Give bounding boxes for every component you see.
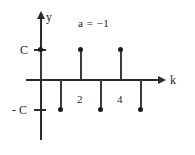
stem-k5 [140,80,142,110]
x-axis-label: k [170,74,176,86]
y-tick-label-positive-c: C [20,44,28,56]
stem-k2 [80,50,82,80]
stem-k3 [100,80,102,110]
marker-k1 [58,107,63,112]
stem-plot-figure: y k C - C 2 4 a = −1 [0,0,195,155]
y-axis-arrow-icon [37,11,45,19]
x-tick-label-4: 4 [117,94,123,105]
y-tick-label-negative-c: - C [12,104,27,116]
stem-k1 [60,80,62,110]
x-tick-label-2: 2 [77,94,83,105]
y-tick-negative-c [34,109,46,111]
x-axis-arrow-icon [158,76,166,84]
y-axis-label: y [46,11,52,23]
marker-k4 [118,47,123,52]
marker-k5 [138,107,143,112]
marker-k3 [98,107,103,112]
marker-k2 [78,47,83,52]
parameter-annotation: a = −1 [78,18,109,29]
stem-k4 [120,50,122,80]
stem-k0 [40,50,42,80]
marker-k0 [38,47,43,52]
